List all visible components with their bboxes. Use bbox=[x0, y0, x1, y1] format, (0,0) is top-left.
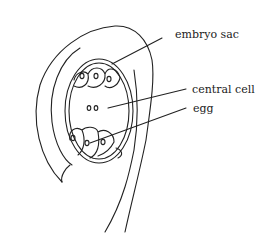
egg-nucleus bbox=[85, 140, 89, 145]
synergid-nucleus bbox=[101, 139, 105, 144]
leader-central-cell bbox=[108, 89, 186, 108]
antipodal-nucleus bbox=[80, 73, 84, 78]
polar-nucleus bbox=[94, 106, 98, 111]
leader-egg bbox=[90, 108, 186, 143]
embryo-sac-outer bbox=[65, 59, 133, 163]
ovule-diagram: embryo sac central cell egg bbox=[0, 0, 272, 242]
label-egg: egg bbox=[193, 102, 214, 115]
outer-integument-tip bbox=[62, 165, 70, 182]
leader-embryo-sac bbox=[112, 38, 162, 64]
label-embryo-sac: embryo sac bbox=[175, 28, 239, 41]
antipodal-nucleus bbox=[94, 73, 98, 78]
antipodal-nucleus bbox=[107, 76, 111, 81]
label-central-cell: central cell bbox=[192, 83, 255, 96]
polar-nucleus bbox=[87, 106, 91, 111]
